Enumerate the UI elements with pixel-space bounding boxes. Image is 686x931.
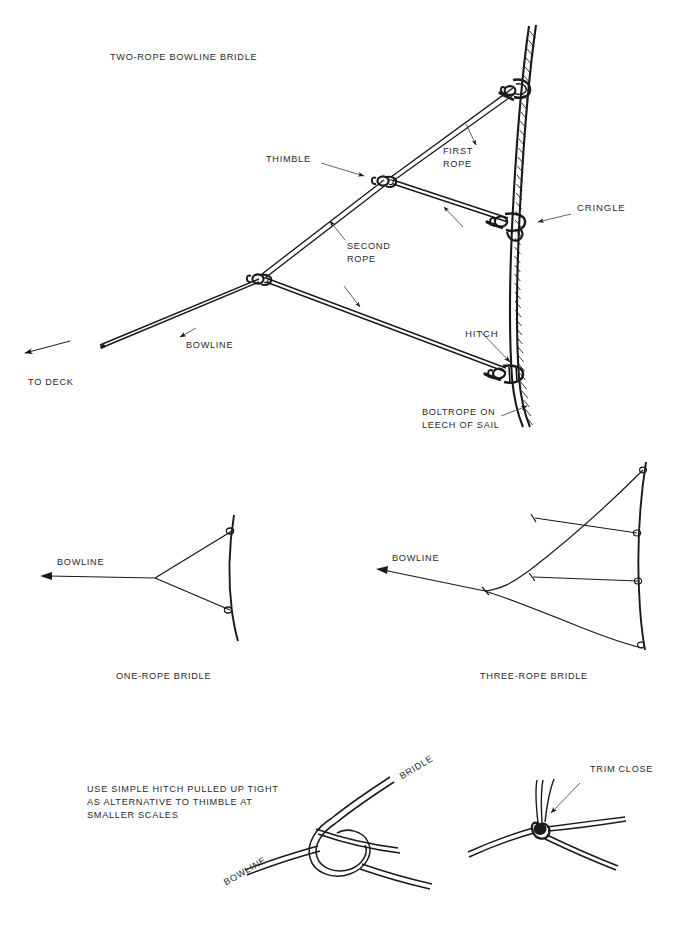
to-deck-arrow: [25, 341, 70, 353]
bowline-standing-part: [100, 279, 259, 349]
boltrope-label: BOLTROPE ON LEECH OF SAIL: [422, 406, 500, 432]
one-rope-caption: ONE-ROPE BRIDLE: [116, 670, 211, 683]
boltrope-leader: [501, 406, 527, 416]
thimble-leader: [321, 163, 364, 176]
hitch-label: HITCH: [465, 327, 499, 341]
first-rope-lower: [393, 180, 508, 222]
top-cringle-fitting: [500, 80, 530, 100]
second-rope-lower: [266, 278, 506, 372]
figure-page: TWO-ROPE BOWLINE BRIDLE THIMBLE FIRST RO…: [0, 0, 686, 931]
bottom-note: USE SIMPLE HITCH PULLED UP TIGHT AS ALTE…: [87, 783, 279, 822]
trim-close-label: TRIM CLOSE: [590, 763, 653, 776]
bottom-hitch-fitting: [485, 365, 523, 383]
main-bridle-group: [25, 25, 571, 427]
bowline-label-one-rope: BOWLINE: [57, 556, 104, 569]
first-rope-leader-upper: [466, 124, 476, 145]
bowline-label-main: BOWLINE: [186, 339, 233, 352]
to-deck-label: TO DECK: [28, 376, 74, 389]
trim-close-detail: [468, 779, 626, 870]
bowline-leader: [180, 328, 196, 337]
cringle-label: CRINGLE: [577, 201, 626, 215]
one-rope-bridle-group: [40, 515, 238, 641]
three-rope-caption: THREE-ROPE BRIDLE: [480, 670, 588, 683]
first-rope-label: FIRST ROPE: [443, 145, 473, 171]
thimble-label: THIMBLE: [266, 153, 311, 166]
first-rope-leader-lower: [444, 207, 463, 227]
second-rope-leader-upper: [330, 221, 345, 240]
second-rope-leader-lower: [344, 286, 360, 307]
second-rope-label: SECOND ROPE: [347, 240, 391, 266]
bowline-label-three-rope: BOWLINE: [392, 552, 439, 565]
cringle-leader: [538, 214, 571, 222]
page-title: TWO-ROPE BOWLINE BRIDLE: [110, 51, 257, 64]
thimble-fitting: [372, 176, 396, 187]
